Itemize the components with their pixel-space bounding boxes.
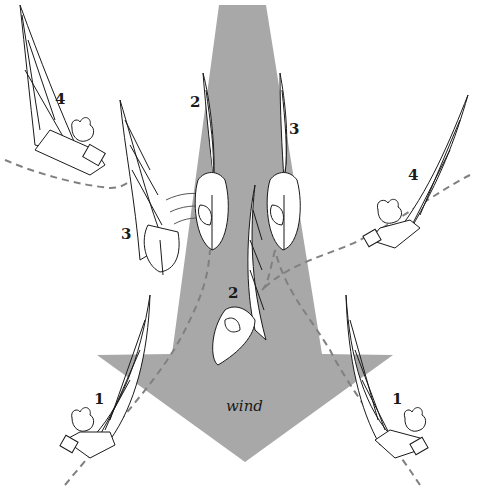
position-label-left-4: 4 (55, 92, 65, 107)
position-label-right-3: 2 (228, 286, 238, 301)
position-label-right-1: 1 (392, 392, 402, 407)
position-label-left-3: 3 (121, 227, 131, 242)
position-label-right-2: 3 (289, 122, 299, 137)
tacking-diagram: 4 3 2 3 2 4 1 1 wind (0, 0, 487, 488)
position-label-right-4: 4 (408, 168, 418, 183)
position-label-left-2: 2 (190, 95, 200, 110)
wind-label: wind (226, 399, 263, 414)
boat-left-3 (120, 100, 179, 275)
position-label-left-1: 1 (94, 392, 104, 407)
boat-right-1 (346, 295, 428, 458)
boat-left-1 (60, 295, 150, 458)
